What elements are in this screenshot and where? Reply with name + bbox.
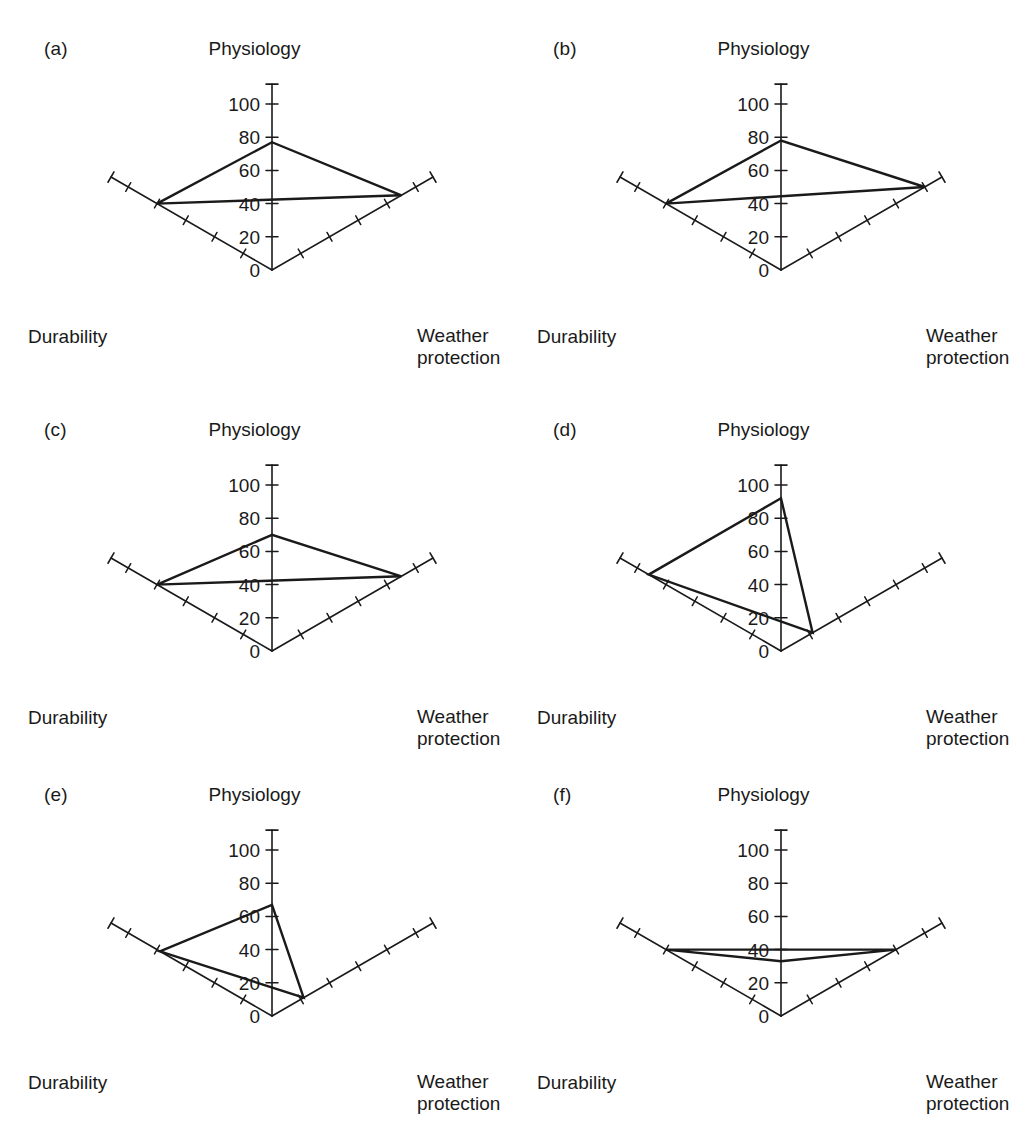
axis-tick bbox=[356, 216, 361, 225]
radial-tick-label: 100 bbox=[737, 475, 769, 496]
axis-spoke bbox=[111, 558, 272, 651]
axis-tick bbox=[298, 630, 303, 639]
axis-tick bbox=[385, 945, 390, 954]
axis-tick bbox=[922, 929, 927, 938]
radial-tick-label: 60 bbox=[239, 160, 260, 181]
radial-tick-label: 0 bbox=[758, 260, 769, 281]
axis-spoke bbox=[272, 923, 433, 1016]
radial-tick-label: 80 bbox=[239, 127, 260, 148]
axis-tick bbox=[721, 613, 726, 622]
axis-tick bbox=[807, 995, 812, 1004]
radial-tick-label: 60 bbox=[748, 906, 769, 927]
axis-tick bbox=[894, 199, 899, 208]
axis-tick bbox=[635, 929, 640, 938]
radial-tick-label: 0 bbox=[758, 1006, 769, 1027]
data-polygon bbox=[157, 535, 401, 585]
radial-tick-label: 100 bbox=[737, 840, 769, 861]
axis-end-cap bbox=[430, 918, 436, 928]
axis-spoke bbox=[781, 923, 942, 1016]
axis-end-cap bbox=[939, 172, 945, 182]
axis-tick bbox=[750, 249, 755, 258]
axis-tick bbox=[413, 183, 418, 192]
axis-spoke bbox=[272, 177, 433, 270]
data-polygon bbox=[157, 142, 401, 203]
axis-tick bbox=[154, 945, 159, 954]
axis-tick bbox=[183, 962, 188, 971]
radial-tick-label: 20 bbox=[239, 608, 260, 629]
radar-plot: 020406080100 bbox=[509, 381, 1018, 762]
axis-tick bbox=[865, 216, 870, 225]
radial-tick-label: 100 bbox=[737, 94, 769, 115]
radial-tick-label: 100 bbox=[228, 94, 260, 115]
axis-end-cap bbox=[108, 553, 114, 563]
axis-tick bbox=[356, 962, 361, 971]
axis-tick bbox=[385, 580, 390, 589]
axis-end-cap bbox=[430, 553, 436, 563]
axis-tick bbox=[635, 564, 640, 573]
axis-tick bbox=[126, 564, 131, 573]
axis-end-cap bbox=[939, 918, 945, 928]
axis-spoke bbox=[272, 558, 433, 651]
axis-tick bbox=[212, 232, 217, 241]
axis-tick bbox=[413, 929, 418, 938]
axis-tick bbox=[865, 962, 870, 971]
radial-tick-label: 80 bbox=[748, 127, 769, 148]
radial-tick-label: 100 bbox=[228, 840, 260, 861]
axis-tick bbox=[635, 183, 640, 192]
axis-spoke bbox=[620, 177, 781, 270]
axis-tick bbox=[836, 978, 841, 987]
radial-tick-label: 20 bbox=[239, 227, 260, 248]
axis-tick bbox=[212, 613, 217, 622]
axis-end-cap bbox=[939, 553, 945, 563]
axis-tick bbox=[922, 564, 927, 573]
axis-tick bbox=[327, 232, 332, 241]
axis-end-cap bbox=[617, 918, 623, 928]
axis-tick bbox=[356, 597, 361, 606]
axis-tick bbox=[241, 630, 246, 639]
axis-spoke bbox=[111, 177, 272, 270]
axis-spoke bbox=[620, 923, 781, 1016]
axis-end-cap bbox=[617, 553, 623, 563]
axis-tick bbox=[126, 183, 131, 192]
radial-tick-label: 80 bbox=[239, 873, 260, 894]
axis-tick bbox=[298, 249, 303, 258]
axis-tick bbox=[750, 630, 755, 639]
axis-tick bbox=[183, 216, 188, 225]
radial-tick-label: 60 bbox=[748, 160, 769, 181]
radial-tick-label: 0 bbox=[249, 1006, 260, 1027]
radial-tick-label: 40 bbox=[748, 575, 769, 596]
axis-end-cap bbox=[108, 172, 114, 182]
axis-tick bbox=[692, 216, 697, 225]
axis-tick bbox=[894, 580, 899, 589]
axis-tick bbox=[327, 978, 332, 987]
axis-end-cap bbox=[108, 918, 114, 928]
radar-plot: 020406080100 bbox=[0, 746, 509, 1126]
axis-tick bbox=[183, 597, 188, 606]
axis-tick bbox=[721, 978, 726, 987]
radial-tick-label: 0 bbox=[758, 641, 769, 662]
axis-spoke bbox=[620, 558, 781, 651]
axis-tick bbox=[212, 978, 217, 987]
radar-plot: 020406080100 bbox=[0, 0, 509, 381]
data-polygon bbox=[160, 905, 304, 998]
radial-tick-label: 80 bbox=[239, 508, 260, 529]
radial-tick-label: 0 bbox=[249, 260, 260, 281]
axis-tick bbox=[385, 199, 390, 208]
axis-end-cap bbox=[430, 172, 436, 182]
axis-tick bbox=[692, 962, 697, 971]
radar-plot: 020406080100 bbox=[509, 746, 1018, 1126]
radial-tick-label: 80 bbox=[748, 873, 769, 894]
axis-tick bbox=[126, 929, 131, 938]
axis-tick bbox=[327, 613, 332, 622]
radial-tick-label: 20 bbox=[748, 227, 769, 248]
axis-end-cap bbox=[617, 172, 623, 182]
axis-tick bbox=[692, 597, 697, 606]
axis-tick bbox=[241, 249, 246, 258]
radial-tick-label: 100 bbox=[228, 475, 260, 496]
data-polygon bbox=[649, 498, 813, 632]
axis-tick bbox=[241, 995, 246, 1004]
radial-tick-label: 40 bbox=[239, 194, 260, 215]
radar-chart-figure: (a) Physiology Durability Weatherprotect… bbox=[0, 0, 1018, 1126]
axis-tick bbox=[836, 613, 841, 622]
radar-plot: 020406080100 bbox=[509, 0, 1018, 381]
